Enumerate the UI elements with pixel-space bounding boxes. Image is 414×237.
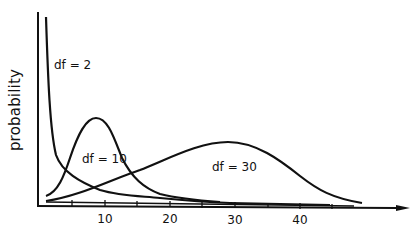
y-axis-label: probability [3,60,27,160]
label-df-2: df = 2 [54,58,91,72]
curve-df-2 [46,17,330,205]
tick-label-30: 30 [227,213,242,227]
tick-label-40: 40 [292,213,307,227]
chi-square-chart [0,0,414,237]
tick-label-20: 20 [162,212,177,226]
tick-label-10: 10 [97,212,112,226]
label-df-30: df = 30 [212,160,257,174]
curve-df-10 [46,118,220,202]
label-df-10: df = 10 [82,152,127,166]
x-axis-arrow-icon [396,205,410,211]
